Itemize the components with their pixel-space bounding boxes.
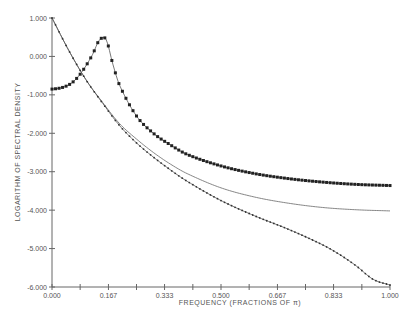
data-point [371,184,374,187]
data-point [361,270,363,272]
data-point [244,170,247,173]
data-point [364,183,367,186]
data-point [181,177,183,179]
data-point [279,176,282,179]
data-point [304,179,307,182]
data-point [79,69,81,71]
data-point [312,239,314,241]
data-point [248,213,250,215]
data-point [199,188,201,190]
data-point [329,248,331,250]
data-point [259,217,261,219]
y-tick-label: 0.000 [29,53,47,60]
data-point [82,68,85,71]
data-point [191,155,194,158]
data-point [118,124,120,126]
data-point [86,81,88,83]
data-point [93,49,96,52]
data-point [58,31,60,33]
data-point [157,160,159,162]
data-point [104,105,106,107]
x-ticks: 0.0000.1670.3330.5000.6670.8331.000 [43,284,399,299]
data-point [346,182,349,185]
x-tick-label: 0.500 [212,292,230,299]
data-point [167,167,169,169]
data-point [160,162,162,164]
data-point [153,132,156,135]
data-point [164,165,166,167]
data-point [227,203,229,205]
data-point [195,157,198,160]
data-point [265,174,268,177]
data-point [65,85,68,88]
data-point [375,280,377,282]
x-axis-label: FREQUENCY (FRACTIONS OF π) [179,299,301,307]
data-point [255,172,258,175]
data-point [114,120,116,122]
data-point [326,246,328,248]
data-point [103,36,106,39]
data-point [354,264,356,266]
data-point [149,129,152,132]
x-tick-label: 1.000 [381,292,399,299]
data-point [58,87,61,90]
data-point [255,216,257,218]
data-point [322,244,324,246]
data-point [163,140,166,143]
spectral-density-chart: 1.0000.000-1.000-2.000-3.000-4.000-5.000… [0,0,405,317]
y-ticks: 1.0000.000-1.000-2.000-3.000-4.000-5.000… [27,15,55,291]
data-point [122,128,124,130]
data-point [280,225,282,227]
data-point [286,177,289,180]
data-point [185,180,187,182]
data-point [276,176,279,179]
data-point [294,231,296,233]
data-point [251,172,254,175]
data-point [287,228,289,230]
data-point [273,223,275,225]
data-point [65,45,67,47]
data-point [202,159,205,162]
data-point [311,180,314,183]
data-point [290,177,293,180]
data-point [205,160,208,163]
data-point [51,88,54,91]
data-point [283,227,285,229]
data-point [156,135,159,138]
data-point [291,230,293,232]
data-point [184,152,187,155]
data-point [371,278,373,280]
data-point [72,80,75,83]
data-point [79,73,82,76]
data-point [192,184,194,186]
data-point [237,169,240,172]
data-point [350,183,353,186]
data-point [357,183,360,186]
data-point [51,17,53,19]
series-smooth-spectrum [52,18,390,211]
data-point [110,59,113,62]
data-point [136,142,138,144]
data-point [340,254,342,256]
data-point [146,151,148,153]
data-point [171,170,173,172]
data-point [135,114,138,117]
data-point [181,151,184,154]
data-point [75,77,78,80]
data-point [234,206,236,208]
data-point [198,158,201,161]
data-point [266,220,268,222]
data-point [160,138,163,141]
data-point [318,180,321,183]
data-point [245,211,247,213]
data-point [217,198,219,200]
data-point [220,164,223,167]
data-point [68,83,71,86]
series-line [52,37,390,185]
data-point [146,126,149,129]
data-point [107,44,110,47]
x-tick-label: 0.833 [325,292,343,299]
data-point [315,241,317,243]
data-point [231,205,233,207]
data-point [89,56,92,59]
